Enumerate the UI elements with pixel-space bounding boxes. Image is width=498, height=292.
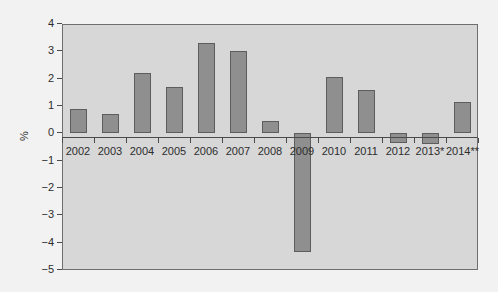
x-axis-tick-line [62,138,63,143]
y-axis-tick-label: 1 [48,98,54,113]
x-axis-tick-label: 2009 [286,145,318,158]
x-axis-tick-line [94,138,95,143]
bar [422,133,439,144]
y-axis-tick-label: 2 [48,71,54,86]
bar-chart: 43210−1−2−3−4−5 % 2002200320042005200620… [0,0,498,292]
y-axis-tick-label: −4 [41,235,54,250]
x-axis-tick-line [254,138,255,143]
bar [454,102,471,133]
x-axis-tick-line [478,138,479,143]
y-axis-tick-label: 0 [48,125,54,140]
y-axis-tick-label: −3 [41,207,54,222]
bar [230,51,247,133]
y-axis-tick-label: −5 [41,262,54,277]
x-axis-tick-line [414,138,415,143]
x-axis-tick-line [126,138,127,143]
x-axis-tick-line [446,138,447,143]
bar [198,43,215,133]
y-axis-tick-label: −2 [41,180,54,195]
x-axis-tick-line [190,138,191,143]
x-axis-tick-label: 2008 [254,145,286,158]
y-axis-tick-label: 4 [48,16,54,31]
x-axis-tick-label: 2013* [414,145,446,158]
y-axis-title: % [18,131,30,141]
bar [134,73,151,133]
y-axis: 43210−1−2−3−4−5 [0,0,62,292]
zero-baseline [62,137,478,138]
bar [70,109,87,134]
x-axis-tick-line [350,138,351,143]
x-axis-tick-label: 2014** [446,145,478,158]
x-axis-tick-label: 2010 [318,145,350,158]
x-axis-tick-label: 2005 [158,145,190,158]
x-axis-tick-line [222,138,223,143]
bar [262,121,279,133]
x-axis-tick-line [286,138,287,143]
x-axis-tick-label: 2007 [222,145,254,158]
x-axis-tick-label: 2006 [190,145,222,158]
x-axis-tick-label: 2002 [62,145,94,158]
bar [390,133,407,143]
x-axis-tick-label: 2004 [126,145,158,158]
x-axis-tick-label: 2011 [350,145,382,158]
bar [358,90,375,134]
y-axis-tick-label: 3 [48,43,54,58]
bar [102,114,119,133]
bar [326,77,343,133]
x-axis-tick-line [382,138,383,143]
x-axis-tick-label: 2012 [382,145,414,158]
x-axis-tick-line [158,138,159,143]
y-axis-tick-label: −1 [41,153,54,168]
bar [166,87,183,133]
x-axis-tick-label: 2003 [94,145,126,158]
x-axis-tick-line [318,138,319,143]
